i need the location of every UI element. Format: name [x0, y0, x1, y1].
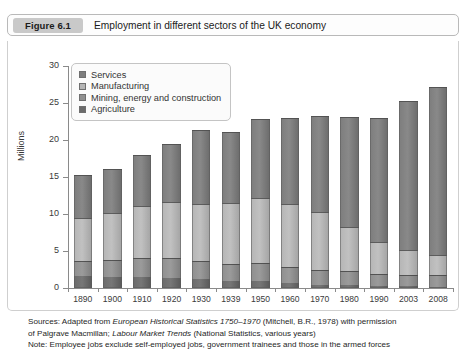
bar-segment-mining-energy-and-construction	[103, 260, 121, 277]
bar-segment-agriculture	[162, 278, 180, 288]
source-text-b: (Mitchell, B.R., 1978) with permission	[261, 317, 397, 326]
bar-1890[interactable]	[74, 175, 92, 288]
x-tick-label: 1960	[275, 294, 305, 304]
bar-segment-manufacturing	[222, 203, 240, 264]
legend-item-services[interactable]: Services	[79, 69, 221, 81]
bar-1970[interactable]	[311, 116, 329, 288]
y-tick-label: 25	[49, 97, 63, 107]
bar-segment-manufacturing	[399, 250, 417, 274]
bar-segment-mining-energy-and-construction	[162, 258, 180, 277]
bar-segment-manufacturing	[370, 242, 388, 274]
bar-1950[interactable]	[251, 119, 269, 288]
bar-1990[interactable]	[370, 118, 388, 288]
figure-page: Figure 6.1 Employment in different secto…	[0, 0, 467, 360]
bar-segment-services	[103, 169, 121, 213]
bar-segment-agriculture	[133, 277, 151, 288]
x-tick-label: 1970	[305, 294, 335, 304]
legend-label: Mining, energy and construction	[91, 93, 221, 103]
bar-segment-services	[370, 118, 388, 242]
bar-segment-manufacturing	[74, 218, 92, 260]
bar-segment-services	[311, 116, 329, 211]
y-tick-label: 0	[54, 282, 63, 292]
x-tick	[98, 288, 99, 292]
x-tick-label: 1930	[186, 294, 216, 304]
y-tick-label: 15	[49, 171, 63, 181]
bar-segment-manufacturing	[103, 213, 121, 260]
bar-segment-mining-energy-and-construction	[133, 258, 151, 277]
chart-legend: ServicesManufacturingMining, energy and …	[71, 63, 231, 121]
x-tick-label: 1990	[364, 294, 394, 304]
source-title-1: European Historical Statistics 1750–1970	[113, 317, 261, 326]
bar-segment-agriculture	[281, 283, 299, 288]
x-tick	[305, 288, 306, 292]
legend-item-manufacturing[interactable]: Manufacturing	[79, 81, 221, 93]
bar-segment-mining-energy-and-construction	[192, 261, 210, 279]
bar-1960[interactable]	[281, 118, 299, 288]
bar-segment-agriculture	[399, 286, 417, 288]
bar-segment-mining-energy-and-construction	[251, 263, 269, 282]
bar-segment-agriculture	[340, 285, 358, 288]
bar-segment-services	[340, 117, 358, 227]
source-line-2: of Palgrave Macmillan; Labour Market Tre…	[28, 328, 460, 340]
bar-segment-services	[429, 87, 447, 254]
figure-number-pill: Figure 6.1	[13, 18, 83, 33]
x-tick	[335, 288, 336, 292]
bar-1920[interactable]	[162, 144, 180, 288]
bar-segment-agriculture	[74, 276, 92, 288]
legend-swatch-icon	[79, 83, 86, 90]
bar-segment-mining-energy-and-construction	[281, 267, 299, 283]
bar-segment-agriculture	[251, 281, 269, 288]
x-tick	[68, 288, 69, 292]
x-tick	[157, 288, 158, 292]
x-tick	[423, 288, 424, 292]
x-tick-label: 1939	[216, 294, 246, 304]
bar-segment-agriculture	[222, 281, 240, 288]
bar-1980[interactable]	[340, 117, 358, 288]
bar-segment-manufacturing	[251, 198, 269, 262]
bar-1900[interactable]	[103, 169, 121, 288]
legend-item-mining-energy-and-construction[interactable]: Mining, energy and construction	[79, 92, 221, 104]
legend-swatch-icon	[79, 106, 86, 113]
bar-2008[interactable]	[429, 87, 447, 288]
bar-segment-services	[222, 132, 240, 203]
x-tick	[127, 288, 128, 292]
bar-1930[interactable]	[192, 130, 210, 288]
figure-footer: Sources: Adapted from European Historica…	[28, 316, 460, 351]
bar-segment-manufacturing	[340, 227, 358, 271]
legend-swatch-icon	[79, 71, 86, 78]
x-tick-label: 1890	[68, 294, 98, 304]
bar-segment-mining-energy-and-construction	[370, 274, 388, 286]
x-tick	[364, 288, 365, 292]
figure-caption-bar: Figure 6.1 Employment in different secto…	[7, 14, 459, 36]
y-tick-label: 20	[49, 134, 63, 144]
x-tick	[394, 288, 395, 292]
bar-segment-services	[281, 118, 299, 205]
bar-2003[interactable]	[399, 101, 417, 288]
legend-label: Manufacturing	[91, 81, 149, 91]
bar-segment-manufacturing	[311, 212, 329, 270]
legend-label: Agriculture	[91, 104, 135, 114]
bar-segment-agriculture	[370, 286, 388, 288]
bar-1939[interactable]	[222, 132, 240, 288]
bar-segment-mining-energy-and-construction	[429, 275, 447, 286]
x-tick-label: 1900	[98, 294, 128, 304]
source-line-1: Sources: Adapted from European Historica…	[28, 316, 460, 328]
x-tick	[246, 288, 247, 292]
bar-segment-agriculture	[311, 285, 329, 288]
y-tick-label: 5	[54, 245, 63, 255]
source-text-a: Sources: Adapted from	[28, 317, 113, 326]
source-text-d: (National Statistics, various years)	[191, 329, 316, 338]
bar-1910[interactable]	[133, 155, 151, 288]
bar-segment-services	[399, 101, 417, 250]
legend-label: Services	[91, 70, 126, 80]
legend-item-agriculture[interactable]: Agriculture	[79, 104, 221, 116]
x-tick	[275, 288, 276, 292]
x-tick	[216, 288, 217, 292]
x-tick-label: 1950	[246, 294, 276, 304]
bar-segment-manufacturing	[162, 202, 180, 258]
bar-segment-manufacturing	[429, 255, 447, 276]
bar-segment-mining-energy-and-construction	[340, 271, 358, 285]
bar-segment-services	[74, 175, 92, 219]
y-tick-label: 10	[49, 208, 63, 218]
bar-segment-agriculture	[429, 287, 447, 288]
